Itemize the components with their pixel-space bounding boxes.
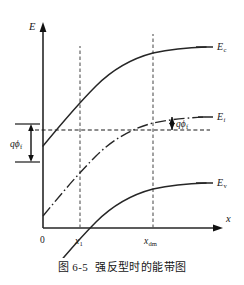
vertical-guides [80,34,153,228]
caption-text: 强反型时的能带图 [95,261,186,273]
qphif-right-label: qϕf [176,119,189,130]
qphif-left-arrowhead-down [28,155,34,162]
energy-band-chart: Ec Ei Ev qϕf [0,0,244,258]
y-axis-label: E [28,21,36,32]
label-ec: Ec [216,41,227,53]
y-axis-arrowhead [40,22,47,32]
x-axis-arrowhead [213,225,223,232]
curve-valence-band [43,183,206,258]
origin-label: 0 [40,235,45,245]
x-axis-label: x [225,213,231,224]
caption-number: 图 6-5 [58,261,88,273]
figure-container: Ec Ei Ev qϕf [0,0,244,285]
label-ev: Ev [216,177,228,189]
band-labels: Ec Ei Ev [216,41,228,189]
qphif-left-arrowhead-up [28,124,34,131]
figure-caption: 图 6-5强反型时的能带图 [0,258,244,274]
label-ei: Ei [216,111,226,123]
axis-group [40,22,223,231]
curve-conduction-band [43,47,206,146]
annotation-qphif-right: qϕf [169,117,189,130]
qphif-right-arrowhead-down [169,123,175,130]
band-label-leaders [196,47,213,183]
tick-label-xdm: xdm [143,236,158,247]
qphif-left-label: qϕf [10,139,23,150]
